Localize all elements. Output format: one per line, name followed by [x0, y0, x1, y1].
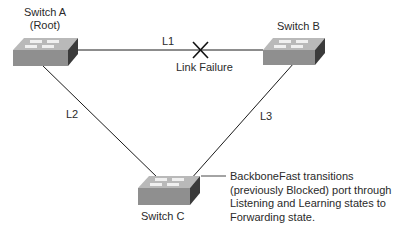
link-l3: [190, 63, 294, 180]
backbonefast-annotation: BackboneFast transitions (previously Blo…: [230, 170, 391, 224]
annotation-line-1: BackboneFast transitions: [230, 170, 391, 184]
switch-b-icon: [263, 38, 325, 65]
link-l2: [42, 65, 160, 180]
switch-a-role: (Root): [16, 19, 74, 32]
link-failure-label: Link Failure: [176, 61, 233, 74]
switch-a-name: Switch A: [16, 6, 74, 19]
annotation-line-2: (previously Blocked) port through: [230, 184, 391, 198]
switch-b-label: Switch B: [277, 20, 320, 33]
switch-c-label: Switch C: [141, 210, 184, 223]
link-l1-label: L1: [162, 35, 174, 48]
switch-a-icon: [13, 38, 78, 66]
annotation-line-3: Listening and Learning states to: [230, 197, 391, 211]
switch-c-icon: [138, 176, 200, 205]
link-l2-label: L2: [66, 108, 78, 121]
annotation-line-4: Forwarding state.: [230, 211, 391, 225]
switch-a-label: Switch A (Root): [16, 6, 74, 32]
link-l3-label: L3: [260, 110, 272, 123]
